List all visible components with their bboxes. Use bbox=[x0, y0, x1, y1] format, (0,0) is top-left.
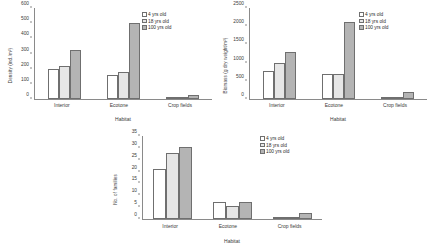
bar-group bbox=[48, 8, 81, 99]
legend-item: 4 yrs old bbox=[260, 136, 289, 141]
x-tick-label: Ecotone bbox=[325, 102, 343, 112]
bar bbox=[166, 97, 177, 99]
y-tick-label: 0 bbox=[26, 92, 29, 97]
y-axis-ticks-biomass: 05001000150020002500 bbox=[221, 8, 247, 99]
bar bbox=[239, 202, 252, 219]
legend-label: 18 yrs old bbox=[266, 143, 287, 148]
bar bbox=[263, 71, 274, 99]
bar bbox=[403, 92, 414, 99]
plot-area-biomass: 05001000150020002500 bbox=[249, 8, 427, 100]
bar bbox=[153, 169, 166, 219]
x-axis-tick-labels-density: InteriorEcotoneCrop fields bbox=[34, 102, 212, 112]
legend-label: 100 yrs old bbox=[266, 149, 289, 154]
bar bbox=[299, 213, 312, 219]
bar bbox=[381, 97, 392, 99]
y-tick-label: 20 bbox=[132, 164, 137, 169]
legend-swatch-icon bbox=[142, 12, 147, 17]
x-tick-label: Interior bbox=[162, 223, 178, 233]
legend-item: 4 yrs old bbox=[359, 12, 388, 17]
y-tick-mark bbox=[138, 135, 140, 136]
bar bbox=[333, 74, 344, 99]
bar-group bbox=[322, 8, 355, 99]
x-tick-label: Crop fields bbox=[168, 102, 192, 112]
plot-area-density: 0100200300400500600 bbox=[34, 8, 212, 100]
legend-item: 100 yrs old bbox=[359, 25, 388, 30]
bar bbox=[177, 97, 188, 99]
legend-swatch-icon bbox=[359, 12, 364, 17]
y-tick-mark bbox=[30, 37, 32, 38]
legend-swatch-icon bbox=[260, 143, 265, 148]
legend-item: 100 yrs old bbox=[260, 149, 289, 154]
bar bbox=[48, 69, 59, 99]
y-tick-label: 0 bbox=[134, 212, 137, 217]
bar bbox=[286, 217, 299, 219]
legend-label: 4 yrs old bbox=[365, 12, 383, 17]
bar bbox=[344, 22, 355, 99]
y-tick-mark bbox=[30, 7, 32, 8]
chart-panel-biomass: Biomass (g dry weight/m²) 05001000150020… bbox=[219, 2, 429, 128]
x-tick-label: Ecotone bbox=[110, 102, 128, 112]
y-tick-label: 500 bbox=[21, 16, 29, 21]
y-tick-mark bbox=[138, 218, 140, 219]
y-axis-ticks-families: 05101520253035 bbox=[114, 136, 140, 219]
legend-item: 4 yrs old bbox=[142, 12, 171, 17]
legend-item: 100 yrs old bbox=[142, 25, 171, 30]
y-tick-label: 1000 bbox=[233, 55, 244, 60]
y-tick-label: 5 bbox=[134, 200, 137, 205]
y-tick-mark bbox=[245, 43, 247, 44]
x-axis-title-biomass: Habitat bbox=[249, 116, 427, 122]
y-tick-mark bbox=[245, 61, 247, 62]
bar-group bbox=[153, 136, 192, 219]
bar-groups-biomass bbox=[250, 8, 427, 99]
bar bbox=[107, 75, 118, 99]
y-axis-ticks-density: 0100200300400500600 bbox=[6, 8, 32, 99]
bar-groups-density bbox=[35, 8, 212, 99]
y-tick-mark bbox=[138, 170, 140, 171]
legend-label: 18 yrs old bbox=[365, 19, 386, 24]
x-tick-label: Crop fields bbox=[278, 223, 302, 233]
y-tick-mark bbox=[30, 22, 32, 23]
y-tick-mark bbox=[245, 79, 247, 80]
legend-density: 4 yrs old18 yrs old100 yrs old bbox=[142, 12, 171, 30]
bar bbox=[226, 206, 239, 219]
legend-label: 4 yrs old bbox=[148, 12, 166, 17]
bar-group bbox=[107, 8, 140, 99]
y-tick-label: 2000 bbox=[233, 19, 244, 24]
legend-biomass: 4 yrs old18 yrs old100 yrs old bbox=[359, 12, 388, 30]
bar bbox=[59, 66, 70, 99]
y-tick-mark bbox=[138, 146, 140, 147]
legend-label: 100 yrs old bbox=[148, 25, 171, 30]
bar bbox=[285, 52, 296, 99]
chart-panel-families: No. of families 05101520253035 InteriorE… bbox=[108, 128, 326, 250]
x-axis-tick-labels-families: InteriorEcotoneCrop fields bbox=[142, 223, 322, 233]
y-tick-mark bbox=[30, 67, 32, 68]
y-tick-label: 600 bbox=[21, 1, 29, 6]
y-tick-label: 25 bbox=[132, 152, 137, 157]
bar bbox=[188, 95, 199, 99]
y-tick-mark bbox=[138, 158, 140, 159]
chart-panel-density: Density (ind./m²) 0100200300400500600 In… bbox=[4, 2, 214, 128]
y-tick-label: 500 bbox=[236, 73, 244, 78]
y-tick-label: 400 bbox=[21, 31, 29, 36]
y-tick-mark bbox=[138, 206, 140, 207]
y-tick-label: 100 bbox=[21, 76, 29, 81]
bar bbox=[129, 23, 140, 99]
y-tick-label: 0 bbox=[241, 92, 244, 97]
legend-swatch-icon bbox=[260, 149, 265, 154]
legend-label: 18 yrs old bbox=[148, 19, 169, 24]
bar bbox=[118, 72, 129, 99]
y-tick-label: 2500 bbox=[233, 1, 244, 6]
x-axis-tick-labels-biomass: InteriorEcotoneCrop fields bbox=[249, 102, 427, 112]
y-tick-mark bbox=[138, 182, 140, 183]
y-tick-mark bbox=[245, 7, 247, 8]
y-tick-label: 30 bbox=[132, 140, 137, 145]
y-tick-mark bbox=[245, 98, 247, 99]
x-tick-label: Crop fields bbox=[383, 102, 407, 112]
legend-item: 18 yrs old bbox=[260, 143, 289, 148]
legend-swatch-icon bbox=[359, 25, 364, 30]
bar-groups-families bbox=[143, 136, 322, 219]
bar-group bbox=[263, 8, 296, 99]
y-tick-mark bbox=[30, 82, 32, 83]
bar bbox=[392, 97, 403, 99]
legend-swatch-icon bbox=[142, 25, 147, 30]
